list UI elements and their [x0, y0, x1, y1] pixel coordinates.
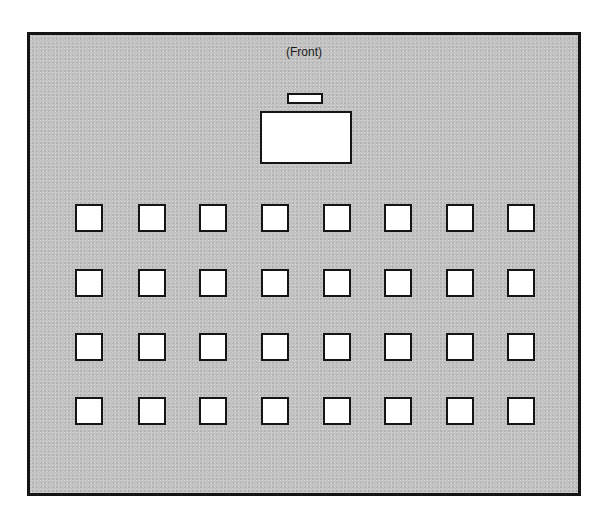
- student-desk: [75, 204, 103, 232]
- teacher-desk: [260, 111, 352, 164]
- front-label: (Front): [30, 45, 578, 59]
- student-desk: [261, 333, 289, 361]
- student-desk: [323, 269, 351, 297]
- student-desk: [75, 269, 103, 297]
- student-desk: [446, 333, 474, 361]
- student-desk: [384, 397, 412, 425]
- student-desk: [507, 269, 535, 297]
- student-desk: [384, 269, 412, 297]
- lectern: [287, 93, 323, 104]
- student-desk: [446, 204, 474, 232]
- student-desk: [507, 397, 535, 425]
- student-desk: [507, 204, 535, 232]
- student-desk: [138, 397, 166, 425]
- student-desk: [199, 397, 227, 425]
- student-desk: [261, 204, 289, 232]
- student-desk: [446, 269, 474, 297]
- student-desk: [75, 333, 103, 361]
- student-desk: [199, 269, 227, 297]
- student-desk: [323, 333, 351, 361]
- student-desk: [75, 397, 103, 425]
- student-desk: [384, 204, 412, 232]
- student-desk: [199, 204, 227, 232]
- student-desk: [138, 204, 166, 232]
- student-desk: [138, 333, 166, 361]
- student-desk: [323, 204, 351, 232]
- student-desk: [199, 333, 227, 361]
- student-desk: [261, 397, 289, 425]
- student-desk: [507, 333, 535, 361]
- student-desk: [323, 397, 351, 425]
- student-desk: [384, 333, 412, 361]
- student-desk: [138, 269, 166, 297]
- student-desk: [261, 269, 289, 297]
- student-desk: [446, 397, 474, 425]
